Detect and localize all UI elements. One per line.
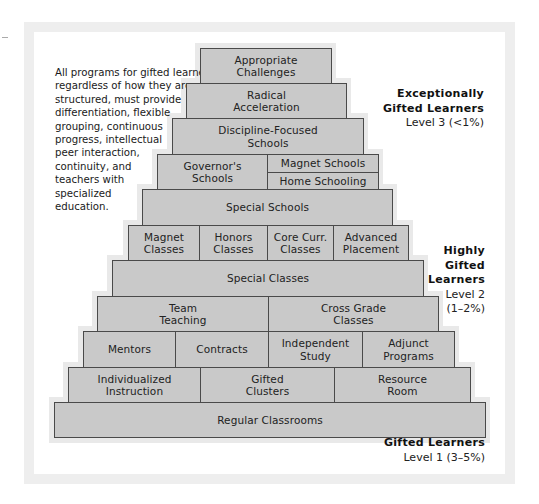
tier-team-teaching: TeamTeaching bbox=[97, 296, 269, 332]
tier-honors-classes: HonorsClasses bbox=[199, 225, 268, 261]
level-1-label: Gifted Learners Level 1 (3–5%) bbox=[384, 436, 485, 465]
tier-resource-room: ResourceRoom bbox=[334, 367, 471, 403]
tier-label: Mentors bbox=[108, 343, 151, 356]
tier-label: IndependentStudy bbox=[282, 337, 350, 362]
tier-label: Cross GradeClasses bbox=[321, 302, 386, 327]
tier-label: Home Schooling bbox=[280, 175, 367, 188]
tier-label: Core Curr.Classes bbox=[274, 231, 327, 256]
level-title: Gifted bbox=[428, 259, 485, 274]
tier-label: HonorsClasses bbox=[213, 231, 253, 256]
level-title: Gifted Learners bbox=[383, 102, 484, 117]
tier-label: MagnetClasses bbox=[144, 231, 184, 256]
tier-regular-classrooms: Regular Classrooms bbox=[54, 402, 486, 438]
level-percentage: Level 3 (<1%) bbox=[383, 116, 484, 131]
tier-independent-study: IndependentStudy bbox=[268, 331, 363, 368]
level-3-label: Exceptionally Gifted Learners Level 3 (<… bbox=[383, 87, 484, 131]
tier-contracts: Contracts bbox=[175, 331, 269, 368]
tier-label: Special Classes bbox=[227, 272, 309, 285]
scan-mark bbox=[2, 37, 8, 38]
tier-label: IndividualizedInstruction bbox=[97, 373, 171, 398]
tier-gifted-clusters: GiftedClusters bbox=[200, 367, 335, 403]
level-percentage: Level 2 bbox=[428, 288, 485, 303]
tier-label: AppropriateChallenges bbox=[234, 54, 297, 79]
tier-label: AdjunctPrograms bbox=[383, 337, 434, 362]
tier-label: AdvancedPlacement bbox=[343, 231, 399, 256]
tier-mentors: Mentors bbox=[83, 331, 176, 368]
note-line: All programs for gifted learners, bbox=[55, 66, 215, 79]
tier-governors-schools: Governor'sSchools bbox=[157, 154, 268, 190]
tier-label: TeamTeaching bbox=[160, 302, 207, 327]
tier-label: Special Schools bbox=[226, 201, 309, 214]
level-title: Exceptionally bbox=[383, 87, 484, 102]
level-title: Highly bbox=[428, 244, 485, 259]
tier-label: Discipline-FocusedSchools bbox=[218, 124, 317, 149]
tier-label: Governor'sSchools bbox=[183, 160, 241, 185]
level-2-label: Highly Gifted Learners Level 2 (1–2%) bbox=[428, 244, 485, 317]
tier-individualized-instruction: IndividualizedInstruction bbox=[68, 367, 201, 403]
tier-label: Contracts bbox=[196, 343, 248, 356]
tier-special-schools: Special Schools bbox=[142, 189, 393, 226]
tier-discipline-focused-schools: Discipline-FocusedSchools bbox=[172, 118, 364, 155]
level-title: Gifted Learners bbox=[384, 436, 485, 451]
tier-label: RadicalAcceleration bbox=[233, 89, 299, 114]
tier-appropriate-challenges: AppropriateChallenges bbox=[200, 48, 332, 84]
tier-label: ResourceRoom bbox=[378, 373, 427, 398]
tier-label: Regular Classrooms bbox=[217, 414, 323, 427]
tier-magnet-classes: MagnetClasses bbox=[128, 225, 200, 261]
tier-cross-grade-classes: Cross GradeClasses bbox=[268, 296, 439, 332]
tier-magnet-schools: Magnet Schools bbox=[267, 154, 379, 173]
tier-label: Magnet Schools bbox=[281, 157, 365, 170]
tier-advanced-placement: AdvancedPlacement bbox=[333, 225, 409, 261]
tier-adjunct-programs: AdjunctPrograms bbox=[362, 331, 455, 368]
level-percentage: (1–2%) bbox=[428, 302, 485, 317]
tier-radical-acceleration: RadicalAcceleration bbox=[186, 83, 347, 119]
tier-label: GiftedClusters bbox=[246, 373, 290, 398]
level-title: Learners bbox=[428, 273, 485, 288]
tier-home-schooling: Home Schooling bbox=[267, 172, 379, 190]
tier-special-classes: Special Classes bbox=[112, 260, 424, 297]
tier-core-curr-classes: Core Curr.Classes bbox=[267, 225, 334, 261]
level-percentage: Level 1 (3–5%) bbox=[384, 451, 485, 466]
